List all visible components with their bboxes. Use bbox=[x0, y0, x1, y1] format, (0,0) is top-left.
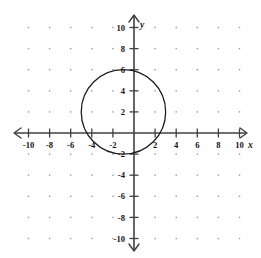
x-tick-label: 2 bbox=[153, 140, 157, 150]
grid-dot bbox=[176, 111, 177, 112]
grid-dot bbox=[28, 196, 29, 197]
grid-dot bbox=[218, 175, 219, 176]
grid-dot bbox=[91, 175, 92, 176]
grid-dot bbox=[70, 175, 71, 176]
grid-dot bbox=[112, 217, 113, 218]
grid-dot bbox=[91, 111, 92, 112]
grid-dot bbox=[49, 196, 50, 197]
grid-dot bbox=[154, 238, 155, 239]
grid-dot bbox=[239, 111, 240, 112]
grid-dot bbox=[91, 217, 92, 218]
grid-dot bbox=[197, 48, 198, 49]
grid-dot bbox=[239, 48, 240, 49]
grid-dot bbox=[49, 69, 50, 70]
y-tick-label: -8 bbox=[118, 213, 126, 223]
x-tick-label: -8 bbox=[46, 140, 54, 150]
x-tick-label: -6 bbox=[67, 140, 75, 150]
grid-dot bbox=[154, 153, 155, 154]
grid-dot bbox=[176, 196, 177, 197]
grid-dot bbox=[239, 175, 240, 176]
grid-dot bbox=[176, 48, 177, 49]
grid-dot bbox=[91, 196, 92, 197]
grid-dot bbox=[239, 90, 240, 91]
grid-dot bbox=[28, 27, 29, 28]
grid-dot bbox=[49, 238, 50, 239]
grid-dot bbox=[70, 238, 71, 239]
grid-dot bbox=[176, 27, 177, 28]
grid-dot bbox=[154, 217, 155, 218]
grid-dot bbox=[154, 90, 155, 91]
y-tick-label: 2 bbox=[121, 107, 125, 117]
grid-dot bbox=[239, 69, 240, 70]
grid-dot bbox=[176, 238, 177, 239]
grid-dot bbox=[197, 196, 198, 197]
grid-dot bbox=[176, 153, 177, 154]
grid-dot bbox=[91, 48, 92, 49]
grid-dot bbox=[218, 238, 219, 239]
y-tick-label: -6 bbox=[118, 191, 126, 201]
grid-dot bbox=[91, 69, 92, 70]
coordinate-plane-graph: -10-8-6-4-2246810108642-2-4-6-8-10 y x bbox=[0, 0, 261, 258]
grid-dot bbox=[154, 27, 155, 28]
grid-dot bbox=[197, 27, 198, 28]
grid-dot bbox=[112, 27, 113, 28]
grid-dot bbox=[49, 153, 50, 154]
x-axis-label: x bbox=[247, 139, 253, 150]
grid-dot bbox=[70, 69, 71, 70]
grid-dot bbox=[112, 196, 113, 197]
x-tick-label: -10 bbox=[23, 140, 34, 150]
x-tick-label: 6 bbox=[195, 140, 200, 150]
grid-dot bbox=[197, 69, 198, 70]
grid-dot bbox=[112, 111, 113, 112]
grid-dot bbox=[91, 90, 92, 91]
grid-dot bbox=[70, 111, 71, 112]
grid-dot bbox=[49, 48, 50, 49]
grid-dot bbox=[28, 48, 29, 49]
grid-dot bbox=[70, 90, 71, 91]
y-tick-label: -10 bbox=[114, 234, 125, 244]
grid-dot bbox=[197, 111, 198, 112]
grid-dot bbox=[91, 153, 92, 154]
x-tick-label: 4 bbox=[174, 140, 179, 150]
grid-dot bbox=[239, 153, 240, 154]
grid-dot bbox=[218, 196, 219, 197]
grid-dot bbox=[70, 153, 71, 154]
grid-dot bbox=[70, 48, 71, 49]
grid-dot bbox=[112, 153, 113, 154]
grid-dot bbox=[28, 175, 29, 176]
grid-dot bbox=[28, 217, 29, 218]
y-tick-label: 10 bbox=[116, 23, 125, 33]
grid-dot bbox=[239, 217, 240, 218]
grid-dot bbox=[239, 196, 240, 197]
y-tick-label: 6 bbox=[121, 65, 126, 75]
x-tick-label: 10 bbox=[235, 140, 244, 150]
grid-dot bbox=[28, 69, 29, 70]
grid-dot bbox=[70, 196, 71, 197]
x-tick-label: -4 bbox=[88, 140, 96, 150]
y-tick-label: 4 bbox=[121, 86, 126, 96]
grid-dot bbox=[176, 217, 177, 218]
grid-dot bbox=[218, 48, 219, 49]
grid-dot bbox=[112, 48, 113, 49]
grid-dot bbox=[112, 69, 113, 70]
grid-dot bbox=[112, 90, 113, 91]
y-tick-label: -2 bbox=[118, 149, 125, 159]
grid-dot bbox=[28, 90, 29, 91]
grid-dot bbox=[218, 111, 219, 112]
grid-dot bbox=[70, 217, 71, 218]
grid-dot bbox=[28, 111, 29, 112]
grid-dot bbox=[28, 238, 29, 239]
grid-dot bbox=[197, 153, 198, 154]
grid-dot bbox=[197, 217, 198, 218]
grid-dot bbox=[154, 69, 155, 70]
y-tick-label: 8 bbox=[121, 44, 126, 54]
grid-dot bbox=[218, 27, 219, 28]
grid-dot bbox=[112, 175, 113, 176]
graph-canvas: -10-8-6-4-2246810108642-2-4-6-8-10 y x bbox=[0, 0, 261, 258]
grid-dot bbox=[176, 69, 177, 70]
grid-dot bbox=[154, 196, 155, 197]
grid-dot bbox=[154, 48, 155, 49]
grid-dot bbox=[49, 111, 50, 112]
x-tick-label: -2 bbox=[109, 140, 116, 150]
grid-dot bbox=[218, 90, 219, 91]
